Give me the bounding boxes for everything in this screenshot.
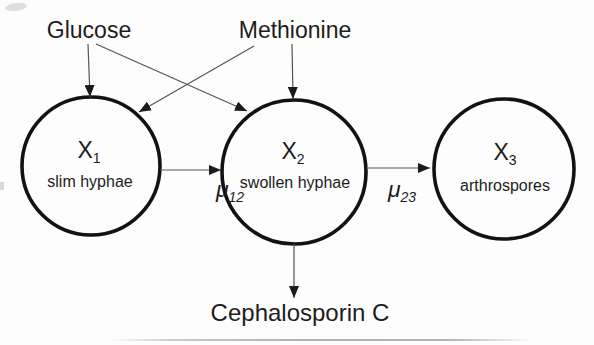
node-x2-symbol: X2: [281, 140, 304, 163]
arrow-glucose-to-x1: [88, 44, 90, 97]
node-x3-symbol-main: X: [493, 139, 508, 165]
node-x1-symbol-main: X: [77, 137, 92, 163]
node-x1-symbol-sub: 1: [93, 150, 101, 166]
glucose-label: Glucose: [47, 19, 131, 42]
node-x2-circle: [222, 100, 366, 244]
node-x1-description: slim hyphae: [47, 174, 132, 190]
arrow-methionine-to-x2: [292, 44, 293, 99]
mu12-label: μ12: [216, 178, 244, 201]
scan-bottom-line-artifact: [110, 339, 534, 341]
arrow-methionine-to-x1: [139, 46, 254, 112]
mu23-subscript: 23: [401, 189, 417, 205]
mu23-label: μ23: [388, 178, 416, 201]
node-x1-circle: [22, 97, 160, 235]
node-x2-description: swollen hyphae: [240, 175, 350, 191]
cephalosporin-c-label: Cephalosporin C: [211, 301, 390, 325]
node-x2-symbol-main: X: [281, 138, 296, 164]
node-x3-circle: [434, 99, 574, 239]
mu12-symbol: μ: [216, 176, 229, 202]
node-x2-symbol-sub: 2: [297, 151, 305, 167]
mu12-subscript: 12: [229, 189, 245, 205]
node-x3-description: arthrospores: [460, 178, 550, 194]
state-transition-diagram: Glucose Methionine X1 slim hyphae X2 swo…: [0, 0, 594, 345]
node-x3-symbol: X3: [493, 141, 516, 164]
node-x3-symbol-sub: 3: [509, 152, 517, 168]
node-x1-symbol: X1: [77, 139, 100, 162]
scan-edge-artifact: [0, 182, 4, 190]
mu23-symbol: μ: [388, 176, 401, 202]
methionine-label: Methionine: [239, 19, 352, 42]
